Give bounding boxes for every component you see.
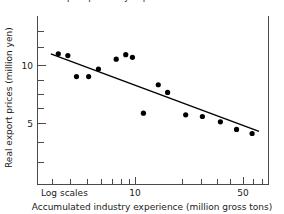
data-point [156, 82, 161, 87]
data-point [114, 57, 119, 62]
y-tick-label-10: 10 [22, 61, 34, 71]
data-point [218, 119, 223, 124]
data-point [234, 127, 239, 132]
data-point [123, 52, 128, 57]
x-tick-label-10: 10 [129, 188, 141, 198]
chart-figure: Real export prices by experience 10 5 Re… [0, 0, 284, 214]
x-axis-title: Accumulated industry experience (million… [32, 202, 272, 212]
y-axis-title: Real export prices (million yen) [4, 27, 14, 168]
data-point [96, 66, 101, 71]
data-point [130, 55, 135, 60]
x-axis-ticks [52, 177, 262, 185]
trend-line [51, 54, 259, 132]
data-points-group [56, 51, 255, 136]
y-tick-label-5: 5 [27, 119, 33, 129]
figure-top-caption: Real export prices by experience [34, 0, 264, 2]
data-point [200, 114, 205, 119]
data-point [65, 53, 70, 58]
data-point [86, 74, 91, 79]
data-point [56, 51, 61, 56]
data-point [183, 112, 188, 117]
data-point [165, 90, 170, 95]
data-point [74, 74, 79, 79]
x-tick-label-50: 50 [237, 188, 249, 198]
data-point [250, 131, 255, 136]
y-axis-ticks [38, 31, 46, 162]
scatter-plot-svg: 10 5 Real export prices (million yen) 10… [0, 0, 284, 214]
log-scales-note: Log scales [41, 188, 88, 198]
plot-frame [38, 16, 269, 185]
data-point [141, 111, 146, 116]
